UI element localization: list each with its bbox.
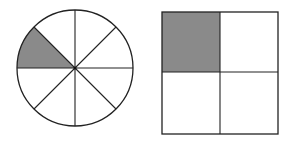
square-quarters: [162, 12, 278, 134]
circle-eighths: [17, 10, 133, 126]
fraction-diagram: [0, 0, 297, 141]
circle-center-dot: [74, 67, 77, 70]
circle-shaded-sector: [17, 27, 75, 68]
square-shaded-quarter: [162, 12, 220, 72]
